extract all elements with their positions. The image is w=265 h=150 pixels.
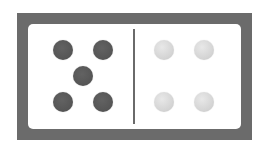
domino-divider [133, 29, 135, 124]
dark-pip-3 [73, 66, 93, 86]
dark-pip-4 [53, 92, 73, 112]
light-pip-1 [154, 40, 174, 60]
light-pip-4 [194, 92, 214, 112]
domino-tile [17, 13, 252, 140]
light-pip-2 [194, 40, 214, 60]
dark-pip-2 [93, 40, 113, 60]
light-pip-3 [154, 92, 174, 112]
canvas [0, 0, 265, 150]
domino-face [28, 24, 241, 129]
dark-pip-1 [53, 40, 73, 60]
dark-pip-5 [93, 92, 113, 112]
